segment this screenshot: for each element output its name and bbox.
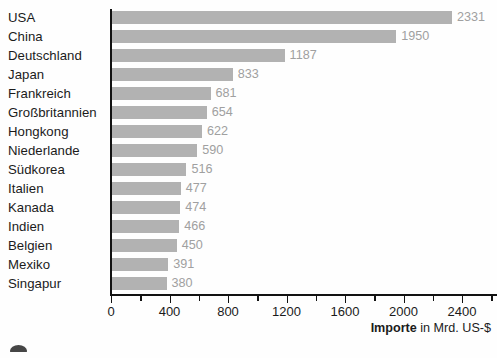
x-tick-minor (257, 295, 258, 301)
category-label: Italien (8, 180, 44, 199)
bar-value-label: 477 (186, 180, 207, 199)
x-tick-major (287, 295, 288, 303)
x-axis-caption: Importe in Mrd. US-$ (371, 321, 491, 335)
bar (111, 49, 285, 62)
x-tick-major (345, 295, 346, 303)
bar (111, 220, 179, 233)
bar-value-label: 590 (202, 142, 223, 161)
chart-row: Japan833 (0, 66, 497, 85)
bar-area: 516 (111, 161, 497, 180)
bar (111, 239, 177, 252)
x-tick-minor (199, 295, 200, 301)
chart-row: Singapur380 (0, 275, 497, 294)
bar-value-label: 833 (238, 66, 259, 85)
x-tick-label: 800 (217, 304, 239, 319)
x-tick-label: 1600 (331, 304, 360, 319)
category-label: China (8, 28, 43, 47)
category-label: Deutschland (8, 47, 82, 66)
chart-row: Deutschland1187 (0, 47, 497, 66)
x-tick-minor (433, 295, 434, 301)
x-tick-major (404, 295, 405, 303)
bar-area: 474 (111, 199, 497, 218)
bar-value-label: 654 (212, 104, 233, 123)
bar (111, 182, 181, 195)
bar-area: 380 (111, 275, 497, 294)
x-tick-major (111, 295, 112, 303)
chart-row: Hongkong622 (0, 123, 497, 142)
chart-row: USA2331 (0, 9, 497, 28)
bar-value-label: 391 (173, 256, 194, 275)
x-tick-minor (140, 295, 141, 301)
bar (111, 144, 197, 157)
bar-area: 833 (111, 66, 497, 85)
chart-row: China1950 (0, 28, 497, 47)
bar-area: 590 (111, 142, 497, 161)
bar-area: 477 (111, 180, 497, 199)
chart-row: Italien477 (0, 180, 497, 199)
bar-value-label: 450 (182, 237, 203, 256)
chart-row: Großbritannien654 (0, 104, 497, 123)
bar-value-label: 516 (191, 161, 212, 180)
bar-area: 466 (111, 218, 497, 237)
bar (111, 125, 202, 138)
chart-row: Niederlande590 (0, 142, 497, 161)
category-label: Frankreich (8, 85, 71, 104)
chart-row: Frankreich681 (0, 85, 497, 104)
bar (111, 30, 396, 43)
bar-area: 450 (111, 237, 497, 256)
x-tick-minor (374, 295, 375, 301)
category-label: USA (8, 9, 35, 28)
bar (111, 106, 207, 119)
chart-row: Indien466 (0, 218, 497, 237)
category-label: Japan (8, 66, 44, 85)
chart-rows: USA2331China1950Deutschland1187Japan833F… (0, 9, 497, 294)
bar-area: 654 (111, 104, 497, 123)
x-tick-major (228, 295, 229, 303)
category-label: Mexiko (8, 256, 50, 275)
bar-chart: USA2331China1950Deutschland1187Japan833F… (0, 0, 497, 358)
bar (111, 163, 186, 176)
category-label: Belgien (8, 237, 52, 256)
x-tick-label: 2400 (448, 304, 477, 319)
category-label: Hongkong (8, 123, 69, 142)
chart-row: Kanada474 (0, 199, 497, 218)
bar-area: 1187 (111, 47, 497, 66)
bar (111, 87, 211, 100)
x-tick-label: 1200 (272, 304, 301, 319)
chart-row: Belgien450 (0, 237, 497, 256)
x-tick-minor (491, 295, 492, 301)
bar (111, 277, 167, 290)
bar-area: 681 (111, 85, 497, 104)
bar-value-label: 1187 (290, 47, 317, 66)
bar-value-label: 622 (207, 123, 228, 142)
x-axis-caption-rest: in Mrd. US-$ (417, 321, 491, 335)
x-axis-line (110, 294, 497, 296)
category-label: Niederlande (8, 142, 80, 161)
page-scan-artifact (10, 345, 27, 352)
y-axis-line (110, 9, 112, 294)
chart-row: Mexiko391 (0, 256, 497, 275)
bar-value-label: 380 (172, 275, 193, 294)
bar-value-label: 474 (185, 199, 206, 218)
bar-area: 622 (111, 123, 497, 142)
category-label: Südkorea (8, 161, 65, 180)
bar-area: 2331 (111, 9, 497, 28)
category-label: Großbritannien (8, 104, 97, 123)
bar-area: 1950 (111, 28, 497, 47)
chart-row: Südkorea516 (0, 161, 497, 180)
bar (111, 68, 233, 81)
x-tick-label: 400 (159, 304, 181, 319)
bar-area: 391 (111, 256, 497, 275)
category-label: Singapur (8, 275, 61, 294)
bar-value-label: 466 (184, 218, 205, 237)
category-label: Kanada (8, 199, 54, 218)
x-tick-major (170, 295, 171, 303)
x-tick-label: 2000 (389, 304, 418, 319)
bar-value-label: 681 (216, 85, 237, 104)
x-tick-major (462, 295, 463, 303)
bar (111, 258, 168, 271)
bar (111, 11, 452, 24)
category-label: Indien (8, 218, 44, 237)
bar-value-label: 1950 (401, 28, 429, 47)
x-tick-minor (316, 295, 317, 301)
